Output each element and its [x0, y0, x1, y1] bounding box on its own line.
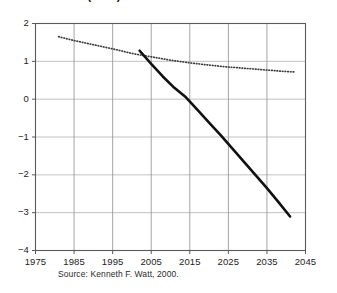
y-tick-label: −1 [3, 131, 29, 142]
x-tick-label: 2045 [286, 256, 326, 267]
y-tick-label: −4 [3, 244, 29, 255]
series-line-projection-solid [140, 51, 290, 217]
chart-figure: Oil & Gas (1000) 210−1−2−3−4 19751985199… [0, 0, 337, 293]
x-tick-label: 1975 [16, 256, 56, 267]
y-tick-label: −3 [3, 206, 29, 217]
x-tick-label: 2015 [170, 256, 210, 267]
x-tick-label: 1985 [54, 256, 94, 267]
x-tick-label: 2005 [131, 256, 171, 267]
series-line-historical-trend-dotted [59, 37, 294, 72]
y-tick-label: 1 [3, 55, 29, 66]
y-tick-label: 0 [3, 93, 29, 104]
x-tick-label: 2025 [208, 256, 248, 267]
y-tick-label: −2 [3, 168, 29, 179]
x-tick-label: 1995 [93, 256, 133, 267]
y-tick-label: 2 [3, 17, 29, 28]
x-tick-label: 2035 [247, 256, 287, 267]
source-note: Source: Kenneth F. Watt, 2000. [58, 269, 179, 279]
plot-area [0, 0, 337, 293]
